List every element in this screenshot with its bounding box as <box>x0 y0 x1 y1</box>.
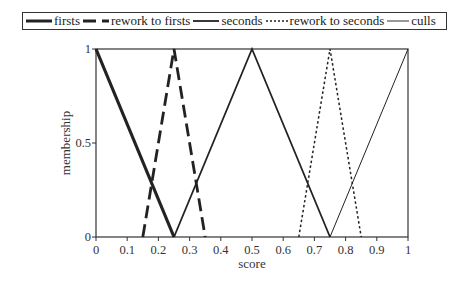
x-tick-label: 0.3 <box>182 243 198 257</box>
membership-chart: 00.10.20.30.40.50.60.70.80.91 00.51 scor… <box>0 0 464 283</box>
plot-frame <box>96 49 408 237</box>
x-tick-label: 0.1 <box>119 243 135 257</box>
x-tick-label: 0.8 <box>338 243 354 257</box>
plot-area <box>96 49 408 237</box>
x-tick-label: 0.2 <box>151 243 167 257</box>
series-rework-to-firsts <box>143 49 205 237</box>
y-tick-label: 0 <box>85 230 91 244</box>
x-tick-label: 0 <box>93 243 99 257</box>
x-tick-label: 1 <box>405 243 411 257</box>
y-tick-label: 0.5 <box>75 136 91 150</box>
x-tick-label: 0.7 <box>307 243 323 257</box>
x-tick-label: 0.9 <box>369 243 385 257</box>
series-rework-to-seconds <box>299 49 361 237</box>
y-axis-ticks: 00.51 <box>75 42 96 244</box>
series-firsts <box>96 49 174 237</box>
x-tick-label: 0.5 <box>244 243 260 257</box>
series-seconds <box>174 49 330 237</box>
y-tick-label: 1 <box>85 42 91 56</box>
x-tick-label: 0.6 <box>275 243 291 257</box>
y-axis-label: membership <box>58 111 73 175</box>
x-axis-label: score <box>238 256 266 271</box>
x-tick-label: 0.4 <box>213 243 229 257</box>
series-culls <box>330 49 408 237</box>
x-axis-ticks: 00.10.20.30.40.50.60.70.80.91 <box>93 237 411 257</box>
